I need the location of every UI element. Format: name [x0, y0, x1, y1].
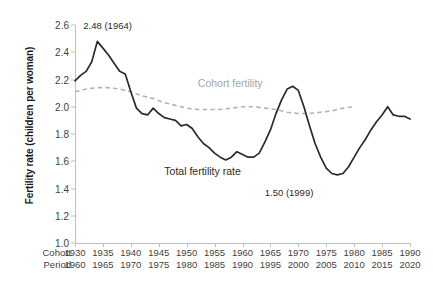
x-tick-label-period-2015: 2015: [372, 259, 393, 270]
x-tick-label-cohort-1965: 1965: [260, 247, 281, 258]
cohort-fertility-series-label: Cohort fertility: [198, 77, 263, 89]
fertility-rate-chart: Fertility rate (children per woman) 2.62…: [0, 0, 433, 291]
x-tick-label-cohort-1930: 1930: [64, 247, 85, 258]
x-tick-label-cohort-1975: 1975: [316, 247, 337, 258]
x-tick-label-cohort-1960: 1960: [232, 247, 253, 258]
y-tick-mark-2-6: [71, 25, 75, 26]
y-tick-mark-2-0: [71, 106, 75, 107]
x-tick-label-cohort-1935: 1935: [92, 247, 113, 258]
x-tick-label-cohort-1980: 1980: [344, 247, 365, 258]
y-tick-mark-1-2: [71, 215, 75, 216]
x-tick-label-period-1990: 1990: [232, 259, 253, 270]
y-tick-mark-1-8: [71, 134, 75, 135]
plot-area: 2.62.42.22.01.81.61.41.21.0 Cohort 19301…: [75, 25, 410, 243]
x-tick-label-period-1995: 1995: [260, 259, 281, 270]
x-tick-label-period-1970: 1970: [120, 259, 141, 270]
total-fertility-series-label: Total fertility rate: [164, 165, 240, 177]
x-tick-label-period-1985: 1985: [204, 259, 225, 270]
x-tick-label-cohort-1985: 1985: [372, 247, 393, 258]
x-tick-label-cohort-1950: 1950: [176, 247, 197, 258]
y-tick-mark-1-6: [71, 161, 75, 162]
x-tick-label-period-1980: 1980: [176, 259, 197, 270]
y-tick-mark-1-4: [71, 188, 75, 189]
x-tick-label-cohort-1940: 1940: [120, 247, 141, 258]
y-axis-title: Fertility rate (children per woman): [24, 11, 35, 241]
y-tick-mark-2-2: [71, 79, 75, 80]
x-tick-label-period-2020: 2020: [399, 259, 420, 270]
peak-annotation: 2.48 (1964): [83, 20, 132, 31]
x-tick-label-period-2005: 2005: [316, 259, 337, 270]
x-tick-label-period-2000: 2000: [288, 259, 309, 270]
y-tick-mark-2-4: [71, 52, 75, 53]
x-tick-label-period-1960: 1960: [64, 259, 85, 270]
x-tick-label-period-1975: 1975: [148, 259, 169, 270]
x-tick-label-cohort-1990: 1990: [399, 247, 420, 258]
x-tick-label-cohort-1955: 1955: [204, 247, 225, 258]
x-tick-label-period-1965: 1965: [92, 259, 113, 270]
x-tick-label-cohort-1970: 1970: [288, 247, 309, 258]
x-tick-label-period-2010: 2010: [344, 259, 365, 270]
trough-annotation: 1.50 (1999): [265, 187, 314, 198]
x-tick-label-cohort-1945: 1945: [148, 247, 169, 258]
